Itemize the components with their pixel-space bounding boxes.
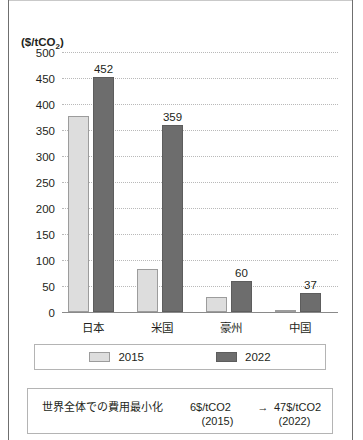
plot-area: 500450400350300250200150100500 452日本359米… [62, 52, 338, 312]
bar-value-label: 359 [163, 111, 182, 123]
bar-group: 359米国 [131, 52, 200, 312]
y-axis-tick-label: 50 [42, 281, 55, 293]
bar-2022-米国: 359 [162, 125, 183, 312]
legend-swatch [216, 352, 237, 362]
note-from-year: (2015) [190, 415, 245, 427]
note-secondary-row: (2015) (2022) [42, 415, 322, 427]
y-axis-tick-label: 250 [36, 177, 55, 189]
bar-chart: ($/tCO2) 500450400350300250200150100500 … [9, 14, 352, 339]
y-axis-tick-label: 200 [36, 203, 55, 215]
bar-2022-豪州: 60 [231, 281, 252, 312]
legend-item-2022: 2022 [216, 351, 271, 363]
bar-2015-米国 [137, 269, 158, 312]
bar-2022-日本: 452 [93, 77, 114, 312]
note-primary-row: 世界全体での費用最小化 6$/tCO2 → 47$/tCO2 [42, 398, 322, 414]
bar-group: 60豪州 [200, 52, 269, 312]
y-axis-unit-tail: ) [60, 36, 64, 48]
bar-value-label: 37 [304, 279, 317, 291]
page-frame-right-rule [352, 0, 353, 440]
legend-item-2015: 2015 [89, 351, 144, 363]
bar-2015-中国 [275, 310, 296, 312]
x-axis-category-label: 中国 [289, 319, 311, 335]
note-to-year: (2022) [267, 415, 322, 427]
x-axis-category-label: 豪州 [220, 319, 242, 335]
axis-baseline: 0 [62, 312, 338, 313]
note-to-value: 47$/tCO2 [274, 401, 321, 413]
y-axis-tick-label: 0 [49, 307, 55, 319]
chart-legend: 20152022 [34, 344, 326, 370]
y-axis-tick-label: 450 [36, 73, 55, 85]
y-axis-tick-label: 400 [36, 99, 55, 111]
bar-2015-豪州 [206, 297, 227, 312]
bar-group: 37中国 [269, 52, 338, 312]
y-axis-tick-label: 500 [36, 47, 55, 59]
note-from-value: 6$/tCO2 [190, 401, 252, 413]
y-axis-tick-label: 350 [36, 125, 55, 137]
bar-value-label: 452 [94, 63, 113, 75]
note-title: 世界全体での費用最小化 [42, 398, 190, 414]
bar-2015-日本 [68, 116, 89, 312]
legend-label: 2015 [118, 351, 144, 363]
x-axis-category-label: 米国 [151, 319, 173, 335]
x-axis-category-label: 日本 [82, 319, 104, 335]
arrow-right-icon: → [252, 401, 274, 413]
legend-swatch [89, 352, 110, 362]
y-axis-tick-label: 150 [36, 229, 55, 241]
clipped-top-caption [120, 0, 335, 9]
bar-group: 452日本 [62, 52, 131, 312]
y-axis-tick-label: 100 [36, 255, 55, 267]
legend-label: 2022 [245, 351, 271, 363]
note-box: 世界全体での費用最小化 6$/tCO2 → 47$/tCO2 (2015) (2… [27, 388, 333, 434]
y-axis-tick-label: 300 [36, 151, 55, 163]
bar-2022-中国: 37 [300, 293, 321, 312]
bar-value-label: 60 [235, 267, 248, 279]
